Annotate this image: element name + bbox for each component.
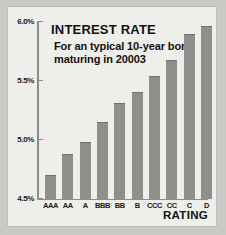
x-axis-tick-label: B [135,201,140,210]
bar-series: AAAAAABBBBBBCCCCCCD [39,22,208,199]
bar-slot: A [80,22,91,199]
x-axis-title: RATING [163,209,208,221]
y-axis-tick-label: 4.5% [17,194,34,203]
bar [184,34,195,199]
bar-slot: AA [62,22,73,199]
x-axis-tick-label: CCC [147,201,162,210]
x-axis-tick-label: A [83,201,88,210]
chart-figure: INTEREST RATE For an typical 10-year bon… [8,7,216,226]
bar [62,154,73,199]
x-axis-line [37,199,208,200]
bar [149,76,160,199]
y-axis-tick-label: 5.0% [17,135,34,144]
y-axis-tick-label: 6.0% [17,17,34,26]
y-axis-tick-label: 5.5% [17,76,34,85]
bar-slot: B [132,22,143,199]
bar-slot: C [184,22,195,199]
x-axis-tick-label: BB [115,201,125,210]
bar [45,175,56,199]
bar [114,103,125,199]
plot-area: 4.5%5.0%5.5%6.0% AAAAAABBBBBBCCCCCCD [37,22,208,199]
bar-slot: BBB [97,22,108,199]
bar [166,60,177,199]
bar [80,142,91,199]
bar [97,122,108,199]
x-axis-tick-label: BBB [95,201,110,210]
bar-slot: CC [166,22,177,199]
bar-slot: AAA [45,22,56,199]
bar [132,92,143,199]
x-axis-tick-label: AAA [43,201,58,210]
bar-slot: CCC [149,22,160,199]
bar-slot: D [201,22,212,199]
bar [201,26,212,199]
bar-slot: BB [114,22,125,199]
x-axis-tick-label: AA [63,201,73,210]
